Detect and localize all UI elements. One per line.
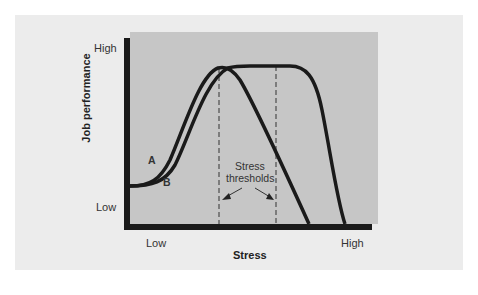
x-axis-label: Stress [233, 249, 267, 261]
y-axis [124, 38, 130, 230]
curve-a-label: A [148, 154, 156, 166]
arrow-right-head [266, 193, 274, 200]
curve-b [130, 66, 345, 224]
curve-b-label: B [163, 176, 171, 188]
x-tick-low: Low [146, 237, 166, 249]
y-tick-low: Low [96, 201, 116, 213]
annotation-line-1: Stress [226, 160, 274, 172]
stress-thresholds-annotation: Stress thresholds [226, 160, 274, 184]
y-axis-label: Job performance [80, 53, 92, 142]
y-tick-high: High [94, 42, 117, 54]
arrow-left-head [222, 193, 231, 200]
annotation-line-2: thresholds [226, 172, 274, 184]
x-axis [124, 224, 372, 230]
x-tick-high: High [341, 237, 364, 249]
